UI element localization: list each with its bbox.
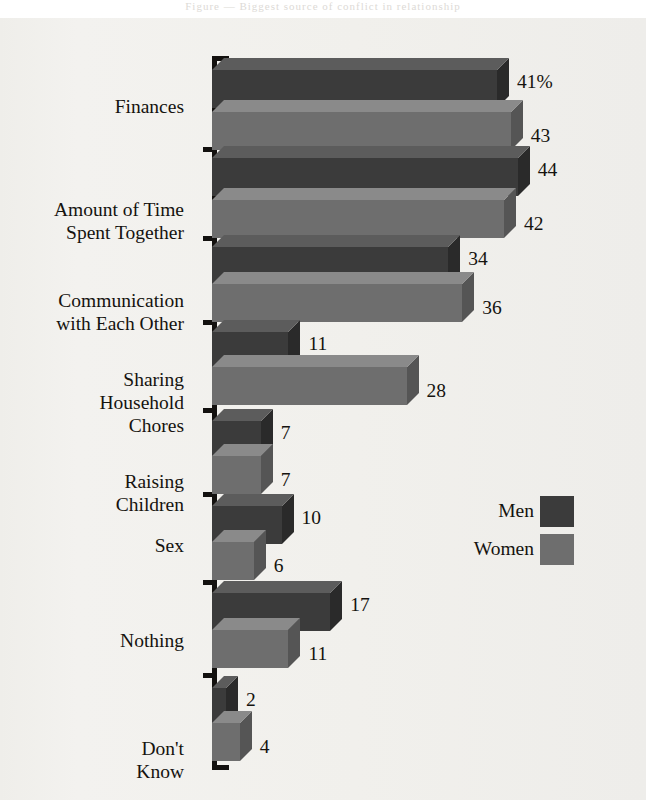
bar-women-side-face (254, 542, 266, 580)
bar-women-side-face (240, 723, 252, 761)
category-label: Finances (115, 95, 184, 118)
bar-women-top-skew (212, 272, 474, 284)
bar-women-top-face (212, 188, 504, 200)
bar-women-top-skew (212, 355, 419, 367)
bar-women-front-face (212, 284, 462, 322)
bar-women-front-face (212, 542, 254, 580)
value-label-women: 6 (274, 556, 284, 576)
value-label-men: 41% (517, 72, 553, 92)
bar-men (212, 494, 282, 532)
bar-men (212, 581, 330, 619)
bar-men-top-skew (212, 494, 294, 506)
value-label-men: 44 (538, 160, 558, 180)
value-label-men: 34 (468, 249, 488, 269)
bar-men-side-face (518, 158, 530, 196)
bar-women-top-skew (212, 618, 300, 630)
bar-men-top-face (212, 320, 288, 332)
bar-men-top-face (212, 676, 226, 688)
chart-legend: Men Women (440, 496, 600, 586)
bar-men (212, 146, 518, 184)
axis-cap-bottom (212, 765, 229, 770)
category-label: Sharing Household Chores (100, 368, 185, 437)
bar-women-side-face (511, 112, 523, 150)
category-label: Amount of Time Spent Together (54, 198, 184, 244)
bar-men (212, 409, 261, 447)
bar-women (212, 444, 261, 482)
bar-women-top-face (212, 100, 511, 112)
value-label-women: 7 (281, 470, 291, 490)
legend-label-women: Women (474, 538, 534, 560)
bar-women (212, 530, 254, 568)
bar-women-top-face (212, 530, 254, 542)
category-label: Sex (155, 534, 184, 557)
bar-women (212, 188, 504, 226)
bar-women-top-face (212, 355, 407, 367)
chart-page: Figure — Biggest source of conflict in r… (0, 0, 646, 800)
value-label-men: 10 (302, 508, 322, 528)
bar-women-top-face (212, 711, 240, 723)
bar-men (212, 676, 226, 714)
bar-women-front-face (212, 200, 504, 238)
legend-row-women[interactable]: Women (440, 534, 600, 567)
value-label-women: 4 (260, 737, 270, 757)
value-label-women: 43 (531, 126, 551, 146)
bar-women-front-face (212, 367, 407, 405)
bar-men-side-face (282, 506, 294, 544)
bar-men-top-face (212, 494, 282, 506)
bar-women (212, 618, 288, 656)
bar-men-top-skew (212, 320, 300, 332)
bar-men-top-skew (212, 235, 460, 247)
bar-men-top-face (212, 581, 330, 593)
bar-men-top-face (212, 409, 261, 421)
bar-men (212, 235, 448, 273)
chart-plot-area: FinancesAmount of Time Spent TogetherCom… (0, 0, 646, 800)
value-label-men: 11 (308, 334, 327, 354)
category-label: Don't Know (136, 737, 184, 783)
value-label-women: 36 (482, 298, 502, 318)
bar-women (212, 355, 407, 393)
bar-men-top-skew (212, 58, 509, 70)
legend-swatch-women (540, 534, 574, 565)
bar-women-top-skew (212, 188, 516, 200)
value-label-women: 42 (524, 214, 544, 234)
value-label-women: 11 (308, 644, 327, 664)
bar-men (212, 320, 288, 358)
legend-row-men[interactable]: Men (440, 496, 600, 529)
bar-women-front-face (212, 112, 511, 150)
bar-women (212, 711, 240, 749)
bar-women-top-skew (212, 100, 523, 112)
bar-women (212, 272, 462, 310)
value-label-men: 17 (350, 595, 370, 615)
bar-women-front-face (212, 630, 288, 668)
value-label-women: 28 (427, 381, 447, 401)
bar-men-top-face (212, 235, 448, 247)
bar-men-top-skew (212, 146, 530, 158)
bar-women-top-face (212, 444, 261, 456)
bar-women-side-face (407, 367, 419, 405)
legend-swatch-men (540, 496, 574, 527)
bar-women-side-face (504, 200, 516, 238)
bar-women-side-face (462, 284, 474, 322)
category-label: Communication with Each Other (56, 289, 184, 335)
bar-men-side-face (330, 593, 342, 631)
bar-men-top-face (212, 146, 518, 158)
bar-women-side-face (288, 630, 300, 668)
category-label: Nothing (120, 629, 184, 652)
legend-label-men: Men (498, 500, 534, 522)
bar-women-top-face (212, 272, 462, 284)
category-label: Raising Children (116, 470, 184, 516)
bar-men-top-face (212, 58, 497, 70)
bar-women-side-face (261, 456, 273, 494)
bar-men-top-skew (212, 581, 342, 593)
bar-women (212, 100, 511, 138)
bar-women-front-face (212, 723, 240, 761)
bar-women-front-face (212, 456, 261, 494)
value-label-men: 2 (246, 690, 256, 710)
value-label-men: 7 (281, 423, 291, 443)
bar-women-top-face (212, 618, 288, 630)
bar-men (212, 58, 497, 96)
